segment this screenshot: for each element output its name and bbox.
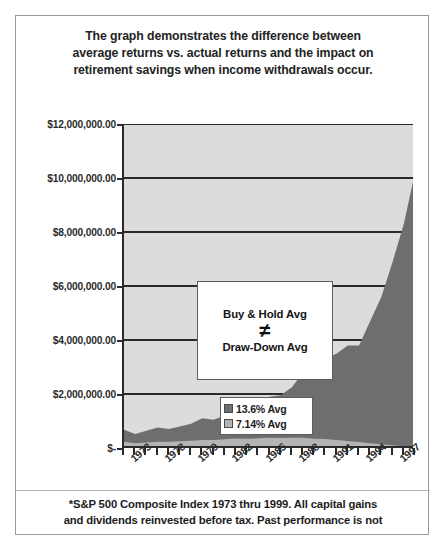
y-axis-tick-mark xyxy=(117,232,122,234)
x-axis-tick-mark xyxy=(256,448,258,455)
y-axis-tick-mark xyxy=(117,340,122,342)
y-axis-tick-mark xyxy=(117,124,122,126)
chart-legend: 13.6% Avg7.14% Avg xyxy=(220,397,313,435)
x-axis-tick-mark xyxy=(223,448,225,455)
y-axis-tick-label: $6,000,000.00 xyxy=(16,281,116,292)
x-axis-tick-mark xyxy=(357,448,359,455)
chart: $12,000,000.00$10,000,000.00$8,000,000.0… xyxy=(16,104,430,484)
x-axis-labels: 197319781979198219851988199119941997 xyxy=(122,455,422,495)
footer-divider xyxy=(16,490,430,491)
title-line-1: The graph demonstrates the difference be… xyxy=(16,28,430,45)
legend-item: 13.6% Avg xyxy=(224,401,308,416)
y-axis-tick-mark xyxy=(117,394,122,396)
y-axis-tick-label: $4,000,000.00 xyxy=(16,335,116,346)
y-axis-tick-label: $10,000,000.00 xyxy=(16,173,116,184)
title-line-2: average returns vs. actual returns and t… xyxy=(16,45,430,62)
legend-item-label: 13.6% Avg xyxy=(236,403,286,415)
legend-swatch-icon xyxy=(224,419,233,428)
footnote-line-1: *S&P 500 Composite Index 1973 thru 1999.… xyxy=(24,497,422,513)
legend-item: 7.14% Avg xyxy=(224,416,308,431)
title-line-3: retirement savings when income withdrawa… xyxy=(16,62,430,79)
x-axis-tick-mark xyxy=(122,448,124,455)
slide-card: The graph demonstrates the difference be… xyxy=(15,15,429,535)
page-title: The graph demonstrates the difference be… xyxy=(16,28,430,79)
callout-bottom-label: Draw-Down Avg xyxy=(222,341,307,353)
legend-item-label: 7.14% Avg xyxy=(236,418,286,430)
x-axis-tick-mark xyxy=(156,448,158,455)
y-axis-tick-mark xyxy=(117,178,122,180)
y-axis-tick-label: $8,000,000.00 xyxy=(16,227,116,238)
footnote-line-2: and dividends reinvested before tax. Pas… xyxy=(24,513,422,529)
x-axis-tick-mark xyxy=(189,448,191,455)
y-axis-tick-label: $2,000,000.00 xyxy=(16,389,116,400)
footnote: *S&P 500 Composite Index 1973 thru 1999.… xyxy=(24,497,422,528)
legend-swatch-icon xyxy=(224,404,233,413)
x-axis-tick-mark xyxy=(391,448,393,455)
x-axis-tick-mark xyxy=(323,448,325,455)
y-axis-tick-label: $- xyxy=(16,443,116,454)
callout-box: Buy & Hold Avg ≠ Draw-Down Avg xyxy=(197,281,333,380)
not-equal-icon: ≠ xyxy=(260,321,271,340)
x-axis-tick-mark xyxy=(290,448,292,455)
y-axis-tick-mark xyxy=(117,286,122,288)
y-axis-tick-label: $12,000,000.00 xyxy=(16,119,116,130)
